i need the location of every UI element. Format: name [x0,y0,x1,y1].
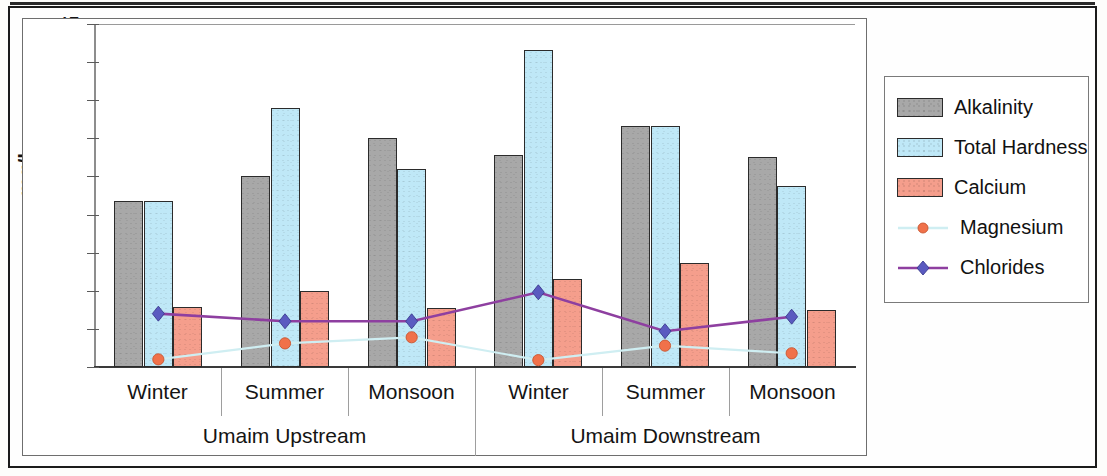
line-magnesium [158,337,791,360]
group-separator [475,368,476,456]
marker-chlorides: Chlorides: 9.8 [532,285,544,300]
category-label: Summer [221,368,348,416]
legend-label: Alkalinity [954,96,1033,119]
legend-item-chlorides[interactable]: Chlorides [885,247,1088,287]
legend-label: Total Hardness [954,136,1087,159]
marker-chlorides: Chlorides: 6 [279,314,291,329]
marker-magnesium: Magnesium: 1 [153,354,164,365]
marker-magnesium: Magnesium: 0.9 [533,355,544,366]
group-label: Umaim Upstream [94,416,475,456]
category-label: Monsoon [348,368,475,416]
marker-magnesium: Magnesium: 1.8 [786,348,797,359]
line-chlorides [158,292,791,331]
chart-legend: AlkalinityTotal HardnessCalciumMagnesium… [884,76,1089,303]
category-label: Winter [94,368,221,416]
category-label: Summer [602,368,729,416]
marker-chlorides: Chlorides: 4.7 [659,324,671,339]
category-separator [348,368,349,416]
marker-magnesium: Magnesium: 3.9 [406,332,417,343]
legend-line-icon [897,258,949,277]
marker-chlorides: Chlorides: 7 [152,306,164,321]
legend-item-total-hardness[interactable]: Total Hardness [885,127,1088,167]
marker-chlorides: Chlorides: 6.6 [786,309,798,324]
legend-item-alkalinity[interactable]: Alkalinity [885,87,1088,127]
category-separator [221,368,222,416]
legend-item-magnesium[interactable]: Magnesium [885,207,1088,247]
marker-magnesium: Magnesium: 2.8 [659,340,670,351]
category-label: Winter [475,368,602,416]
group-label: Umaim Downstream [475,416,856,456]
marker-magnesium: Magnesium: 3.1 [279,338,290,349]
marker-chlorides: Chlorides: 6 [406,314,418,329]
category-label: Monsoon [729,368,856,416]
legend-label: Calcium [954,176,1026,199]
legend-label: Chlorides [960,256,1044,279]
line-series-layer: Magnesium: 1Magnesium: 3.1Magnesium: 3.9… [95,24,855,367]
legend-swatch-icon [897,138,943,157]
page-top-rule [10,2,1095,5]
category-separator [602,368,603,416]
category-axis-band: WinterSummerMonsoonWinterSummerMonsoonUm… [94,368,856,436]
legend-item-calcium[interactable]: Calcium [885,167,1088,207]
category-separator [729,368,730,416]
legend-swatch-icon [897,178,943,197]
legend-label: Magnesium [960,216,1063,239]
legend-swatch-icon [897,98,943,117]
legend-line-icon [897,218,949,237]
chart-screenshot: mg/l 051015202530354045 Magnesium: 1Magn… [0,0,1107,476]
